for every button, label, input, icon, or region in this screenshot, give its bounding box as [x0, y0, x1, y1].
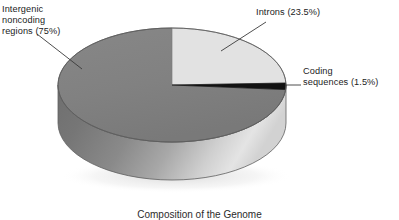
slice-label-coding-sequences: Coding sequences (1.5%)	[303, 66, 398, 88]
leader-line-intergenic	[37, 34, 82, 69]
slice-label-introns: Introns (23.5%)	[256, 7, 376, 18]
slice-label-intergenic-noncoding: Intergenic noncoding regions (75%)	[2, 4, 98, 38]
pie-chart: Intergenic noncoding regions (75%) Intro…	[0, 0, 399, 220]
figure-root: Intergenic noncoding regions (75%) Intro…	[0, 0, 399, 220]
slice-introns[interactable]	[172, 28, 286, 85]
figure-caption: Composition of the Genome	[0, 209, 399, 220]
